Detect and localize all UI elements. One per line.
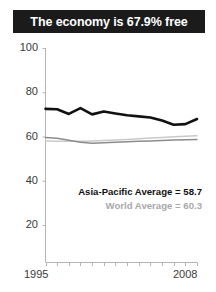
axis-lines (46, 48, 198, 263)
y-tick-label-100: 100 (8, 41, 38, 53)
series-line-economy (46, 108, 198, 125)
x-tick-label-start: 1995 (24, 268, 48, 280)
x-tick-marks (47, 263, 198, 267)
y-tick-label-20: 20 (8, 218, 38, 230)
annotation-world-average: World Average = 60.3 (106, 200, 202, 211)
y-tick-label-80: 80 (8, 85, 38, 97)
annotation-asia-pacific-average: Asia-Pacific Average = 58.7 (78, 186, 202, 197)
y-tick-label-40: 40 (8, 174, 38, 186)
x-tick-label-end: 2008 (173, 268, 197, 280)
data-series-group (46, 108, 198, 143)
economic-freedom-chart: The economy is 67.9% free 100 80 60 40 2… (0, 0, 216, 292)
y-tick-label-60: 60 (8, 130, 38, 142)
